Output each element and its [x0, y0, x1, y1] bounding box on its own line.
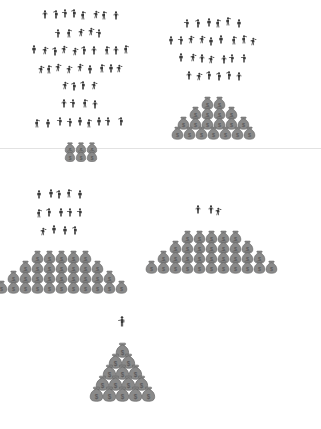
money-bag-row: $$$$$$$: [173, 126, 255, 140]
svg-text:$: $: [246, 266, 249, 272]
money-bag-row: $$$$$: [88, 386, 156, 402]
person-silhouette: [80, 42, 88, 59]
person-silhouette: [207, 51, 215, 68]
person-silhouette: [90, 42, 98, 59]
svg-text:$: $: [79, 156, 82, 161]
group-tiny-crowd-large-pile: $$$$$$$$$$$$$$$$$$$$$$$$$$$$$$$$: [196, 202, 276, 274]
svg-text:$: $: [146, 393, 150, 401]
svg-text:$: $: [84, 286, 87, 292]
person-silhouette: [85, 115, 93, 132]
person-silhouette: [205, 67, 213, 84]
svg-text:$: $: [120, 393, 124, 401]
person-silhouette: [195, 68, 203, 85]
person-silhouette: [70, 5, 78, 22]
svg-text:$: $: [133, 393, 137, 401]
svg-text:$: $: [174, 266, 177, 272]
person-silhouette: [207, 33, 215, 50]
person-silhouette: [92, 6, 100, 23]
person-silhouette: [41, 42, 49, 59]
person-silhouette: [69, 95, 77, 112]
person-silhouette: [177, 49, 185, 66]
person-silhouette: [61, 222, 69, 239]
person-silhouette: [198, 50, 206, 67]
person-silhouette: [41, 6, 49, 23]
person-silhouette: [228, 50, 236, 67]
svg-text:$: $: [212, 132, 215, 138]
svg-text:$: $: [150, 266, 153, 272]
person-silhouette: [187, 31, 195, 48]
person-silhouette: [107, 60, 115, 77]
person-silhouette: [189, 49, 197, 66]
person-silhouette: [57, 204, 65, 221]
person-silhouette: [205, 14, 213, 31]
svg-text:$: $: [120, 286, 123, 292]
person-silhouette: [194, 15, 202, 32]
person-silhouette: [198, 31, 206, 48]
person-silhouette: [217, 31, 225, 48]
crowd-mid-right: [196, 202, 226, 224]
svg-text:$: $: [258, 266, 261, 272]
person-silhouette: [45, 204, 53, 221]
person-silhouette: [37, 61, 45, 78]
svg-text:$: $: [186, 266, 189, 272]
svg-text:$: $: [90, 156, 93, 161]
money-bag: $: [86, 150, 98, 162]
person-silhouette: [104, 113, 112, 130]
svg-text:$: $: [200, 132, 203, 138]
crowd-mid-left: [36, 186, 87, 244]
money-bag: $: [115, 280, 128, 294]
svg-text:$: $: [12, 286, 15, 292]
money-bag: $: [265, 260, 278, 274]
person-silhouette: [71, 43, 79, 60]
person-silhouette: [50, 221, 58, 238]
person-silhouette: [47, 185, 55, 202]
crowd-top-left: [30, 6, 132, 136]
svg-text:$: $: [222, 266, 225, 272]
person-silhouette: [54, 25, 62, 42]
person-silhouette: [76, 59, 84, 76]
person-silhouette: [35, 205, 43, 222]
person-silhouette: [79, 7, 87, 24]
person-silhouette: [45, 61, 53, 78]
infographic-canvas: $$$$$$$$$$$$$$$$$$$$$$$$$$$$$$$$$$$$$$$$…: [0, 0, 321, 429]
person-silhouette: [60, 95, 68, 112]
person-silhouette: [30, 41, 38, 58]
money-pile-top-left: $$$$$$: [65, 142, 97, 162]
money-pile-mid-left: $$$$$$$$$$$$$$$$$$$$$$$$$$$$$$$$: [0, 250, 126, 294]
person-silhouette: [76, 204, 84, 221]
person-silhouette: [60, 41, 68, 58]
person-silhouette: [66, 204, 74, 221]
svg-text:$: $: [188, 132, 191, 138]
svg-text:$: $: [224, 132, 227, 138]
person-silhouette: [86, 61, 94, 78]
person-silhouette: [177, 32, 185, 49]
crowd-top-right: [168, 14, 259, 90]
money-bag-row: $$$$$$$$$$$: [0, 280, 126, 294]
person-silhouette: [65, 61, 73, 78]
person-silhouette: [95, 113, 103, 130]
person-silhouette: [54, 59, 62, 76]
person-silhouette: [61, 5, 69, 22]
person-silhouette: [115, 60, 123, 77]
svg-text:$: $: [72, 286, 75, 292]
person-silhouette: [44, 115, 52, 132]
person-silhouette: [112, 7, 120, 24]
person-silhouette: [215, 68, 223, 85]
svg-text:$: $: [96, 286, 99, 292]
person-silhouette: [214, 15, 222, 32]
svg-text:$: $: [234, 266, 237, 272]
svg-text:$: $: [94, 393, 98, 401]
person-silhouette: [194, 201, 202, 218]
person-silhouette: [117, 311, 127, 332]
person-silhouette: [240, 31, 248, 48]
svg-text:$: $: [236, 132, 239, 138]
person-silhouette: [95, 25, 103, 42]
person-silhouette: [214, 203, 222, 220]
person-silhouette: [98, 60, 106, 77]
svg-text:$: $: [248, 132, 251, 138]
person-silhouette: [230, 32, 238, 49]
person-silhouette: [33, 115, 41, 132]
svg-text:$: $: [36, 286, 39, 292]
person-silhouette: [117, 113, 125, 130]
person-silhouette: [77, 24, 85, 41]
